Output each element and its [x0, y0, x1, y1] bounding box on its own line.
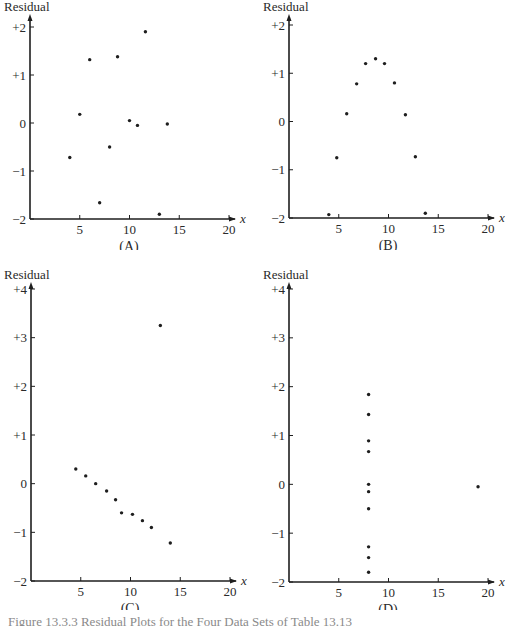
- x-axis-arrow-icon: [229, 217, 236, 222]
- y-tick-label: 0: [21, 476, 28, 491]
- x-tick-label: 10: [123, 222, 136, 237]
- data-point: [141, 519, 144, 522]
- y-tick-label: −1: [271, 162, 285, 177]
- y-tick-label: −1: [13, 525, 27, 540]
- data-point: [383, 62, 386, 65]
- x-axis-arrow-icon: [230, 579, 237, 584]
- y-tick-label: +2: [271, 18, 285, 33]
- panel-label: (B): [379, 238, 398, 250]
- data-point: [393, 81, 396, 84]
- y-tick-label: −2: [271, 575, 285, 590]
- scatter-plot: Residualx−2−10+1+2+3+45101520(D): [259, 260, 518, 610]
- panel-a: Residualx−2−10+1+25101520(A): [0, 0, 259, 250]
- data-point: [68, 156, 71, 159]
- data-point: [367, 450, 370, 453]
- x-axis-label: x: [240, 573, 247, 588]
- y-tick-label: −2: [12, 212, 26, 227]
- y-tick-label: +1: [271, 66, 285, 81]
- scatter-plot: Residualx−2−10+1+25101520(A): [0, 0, 259, 250]
- data-point: [374, 57, 377, 60]
- data-point: [150, 526, 153, 529]
- y-axis-label: Residual: [263, 0, 309, 14]
- data-point: [327, 213, 330, 216]
- y-tick-label: 0: [20, 116, 27, 131]
- panel-label: (C): [121, 601, 140, 610]
- data-point: [136, 124, 139, 127]
- x-tick-label: 20: [223, 222, 236, 237]
- data-point: [367, 413, 370, 416]
- data-point: [367, 393, 370, 396]
- x-tick-label: 5: [336, 585, 343, 600]
- y-tick-label: −2: [13, 574, 27, 589]
- y-axis-label: Residual: [4, 267, 50, 282]
- x-tick-label: 20: [482, 585, 495, 600]
- y-tick-label: +2: [13, 379, 27, 394]
- y-tick-label: +1: [13, 428, 27, 443]
- data-point: [88, 58, 91, 61]
- scatter-plot: Residualx−2−10+1+2+3+45101520(C): [0, 260, 259, 610]
- y-axis-arrow-icon: [287, 282, 292, 289]
- scatter-plot: Residualx−2−10+1+25101520(B): [259, 0, 518, 250]
- data-point: [367, 483, 370, 486]
- data-point: [404, 113, 407, 116]
- x-axis-arrow-icon: [488, 216, 495, 221]
- panel-b: Residualx−2−10+1+25101520(B): [259, 0, 518, 250]
- data-point: [367, 507, 370, 510]
- data-point: [114, 498, 117, 501]
- y-tick-label: −1: [271, 526, 285, 541]
- x-tick-label: 10: [382, 221, 395, 236]
- panel-label: (A): [119, 239, 139, 250]
- y-tick-label: +4: [271, 282, 285, 297]
- data-point: [367, 571, 370, 574]
- y-tick-label: +3: [13, 330, 27, 345]
- y-tick-label: 0: [279, 477, 286, 492]
- x-axis-label: x: [498, 574, 505, 589]
- y-tick-label: +1: [12, 68, 26, 83]
- data-point: [335, 156, 338, 159]
- x-tick-label: 10: [382, 585, 395, 600]
- x-tick-label: 15: [432, 221, 445, 236]
- data-point: [364, 62, 367, 65]
- data-point: [120, 511, 123, 514]
- y-axis-arrow-icon: [29, 282, 34, 289]
- x-axis-arrow-icon: [488, 580, 495, 585]
- data-point: [414, 155, 417, 158]
- panel-label: (D): [378, 602, 398, 610]
- y-tick-label: +4: [13, 282, 27, 297]
- x-tick-label: 15: [173, 222, 186, 237]
- x-tick-label: 15: [432, 585, 445, 600]
- x-tick-label: 5: [77, 222, 84, 237]
- data-point: [84, 474, 87, 477]
- y-axis-label: Residual: [4, 0, 50, 14]
- x-tick-label: 5: [336, 221, 343, 236]
- data-point: [367, 439, 370, 442]
- data-point: [108, 145, 111, 148]
- data-point: [476, 485, 479, 488]
- data-point: [94, 482, 97, 485]
- x-tick-label: 10: [124, 584, 137, 599]
- data-point: [367, 545, 370, 548]
- data-point: [128, 119, 131, 122]
- panel-c: Residualx−2−10+1+2+3+45101520(C): [0, 260, 259, 610]
- data-point: [424, 211, 427, 214]
- data-point: [159, 324, 162, 327]
- y-tick-label: +1: [271, 428, 285, 443]
- data-point: [116, 55, 119, 58]
- figure-caption: Figure 13.3.3 Residual Plots for the Fou…: [8, 614, 352, 626]
- data-point: [367, 490, 370, 493]
- x-axis-label: x: [239, 211, 246, 226]
- x-tick-label: 5: [78, 584, 85, 599]
- y-tick-label: +2: [12, 20, 26, 35]
- y-axis-arrow-icon: [287, 14, 292, 21]
- x-tick-label: 20: [482, 221, 495, 236]
- data-point: [105, 489, 108, 492]
- x-tick-label: 20: [224, 584, 237, 599]
- x-tick-label: 15: [174, 584, 187, 599]
- panel-d: Residualx−2−10+1+2+3+45101520(D): [259, 260, 518, 610]
- y-tick-label: +3: [271, 330, 285, 345]
- y-axis-arrow-icon: [28, 14, 33, 21]
- data-point: [169, 541, 172, 544]
- data-point: [345, 112, 348, 115]
- y-tick-label: −2: [271, 211, 285, 226]
- data-point: [131, 513, 134, 516]
